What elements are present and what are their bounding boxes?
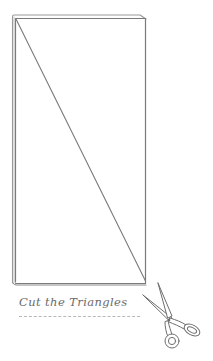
fabric-stack (13, 15, 147, 285)
dashed-divider (19, 316, 140, 317)
step-caption: Cut the Triangles (19, 295, 128, 309)
diagonal-cut-line (16, 19, 146, 281)
scissors-icon (143, 283, 202, 348)
instruction-diagram: Cut the Triangles (0, 0, 213, 361)
